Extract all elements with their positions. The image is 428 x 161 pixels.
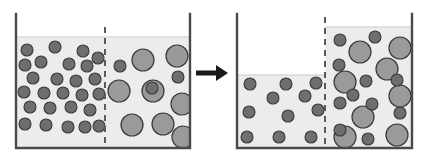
small-solvent-particle bbox=[312, 104, 324, 116]
small-solvent-particle bbox=[146, 82, 158, 94]
small-solvent-particle bbox=[334, 124, 346, 136]
small-solvent-particle bbox=[24, 101, 36, 113]
small-solvent-particle bbox=[62, 121, 74, 133]
small-solvent-particle bbox=[366, 98, 378, 110]
small-solvent-particle bbox=[70, 75, 82, 87]
osmosis-figure bbox=[0, 0, 428, 161]
small-solvent-particle bbox=[243, 106, 255, 118]
small-solvent-particle bbox=[51, 73, 63, 85]
small-solvent-particle bbox=[18, 86, 30, 98]
small-solvent-particle bbox=[172, 71, 184, 83]
small-solvent-particle bbox=[35, 56, 47, 68]
small-solvent-particle bbox=[334, 97, 346, 109]
large-solute-particle bbox=[349, 41, 371, 63]
small-solvent-particle bbox=[76, 89, 88, 101]
small-solvent-particle bbox=[38, 87, 50, 99]
large-solute-particle bbox=[166, 45, 188, 67]
small-solvent-particle bbox=[19, 59, 31, 71]
small-solvent-particle bbox=[19, 118, 31, 130]
large-solute-particle bbox=[121, 114, 143, 136]
small-solvent-particle bbox=[84, 104, 96, 116]
small-solvent-particle bbox=[347, 89, 359, 101]
small-solvent-particle bbox=[65, 101, 77, 113]
small-solvent-particle bbox=[114, 60, 126, 72]
small-solvent-particle bbox=[362, 133, 374, 145]
small-solvent-particle bbox=[44, 102, 56, 114]
large-solute-particle bbox=[132, 49, 154, 71]
small-solvent-particle bbox=[77, 45, 89, 57]
small-solvent-particle bbox=[92, 52, 104, 64]
small-solvent-particle bbox=[369, 31, 381, 43]
figure-canvas bbox=[0, 0, 428, 161]
small-solvent-particle bbox=[391, 74, 403, 86]
small-solvent-particle bbox=[27, 72, 39, 84]
large-solute-particle bbox=[389, 85, 411, 107]
large-solute-particle bbox=[386, 124, 408, 146]
small-solvent-particle bbox=[333, 59, 345, 71]
small-solvent-particle bbox=[267, 92, 279, 104]
small-solvent-particle bbox=[63, 58, 75, 70]
small-solvent-particle bbox=[21, 44, 33, 56]
small-solvent-particle bbox=[79, 121, 91, 133]
small-solvent-particle bbox=[310, 77, 322, 89]
large-solute-particle bbox=[389, 37, 411, 59]
small-solvent-particle bbox=[282, 110, 294, 122]
small-solvent-particle bbox=[81, 60, 93, 72]
before-panel bbox=[16, 14, 194, 148]
small-solvent-particle bbox=[305, 131, 317, 143]
small-solvent-particle bbox=[40, 119, 52, 131]
small-solvent-particle bbox=[93, 120, 105, 132]
arrow-head bbox=[216, 65, 228, 81]
after-panel bbox=[237, 14, 412, 148]
small-solvent-particle bbox=[241, 131, 253, 143]
small-solvent-particle bbox=[334, 34, 346, 46]
small-solvent-particle bbox=[299, 90, 311, 102]
large-solute-particle bbox=[152, 113, 174, 135]
small-solvent-particle bbox=[394, 107, 406, 119]
small-solvent-particle bbox=[360, 75, 372, 87]
small-solvent-particle bbox=[93, 88, 105, 100]
small-solvent-particle bbox=[244, 78, 256, 90]
process-arrow bbox=[196, 65, 228, 81]
small-solvent-particle bbox=[49, 41, 61, 53]
small-solvent-particle bbox=[280, 78, 292, 90]
small-solvent-particle bbox=[273, 131, 285, 143]
small-solvent-particle bbox=[89, 73, 101, 85]
small-solvent-particle bbox=[57, 87, 69, 99]
large-solute-particle bbox=[108, 80, 130, 102]
